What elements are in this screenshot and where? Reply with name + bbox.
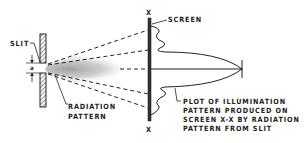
radiation-pattern-callout: RADIATION PATTERN [55, 75, 116, 121]
slit-label: SLIT [10, 39, 29, 48]
screen-label: SCREEN [168, 15, 202, 24]
slit-barrier [40, 34, 46, 107]
radiation-spread [46, 56, 125, 82]
radiation-label-line1: RADIATION [68, 102, 116, 111]
screen [148, 18, 151, 121]
plot-label-line1: PLOT OF ILLUMINATION [183, 97, 286, 106]
plot-description: PLOT OF ILLUMINATION PATTERN PRODUCED ON… [175, 88, 300, 133]
radiation-label-line2: PATTERN [68, 112, 107, 121]
plot-label-line2: PATTERN PRODUCED ON [183, 106, 288, 115]
slit-width-label: a [30, 64, 35, 71]
plot-label-line3: SCREEN X-X BY RADIATION [183, 115, 300, 124]
slit-diffraction-diagram: SLIT a RADIATION PATTERN X X SCREEN PLOT… [0, 0, 304, 143]
x-bottom-label: X [146, 125, 152, 134]
slit-callout: SLIT a [10, 39, 40, 82]
plot-label-line4: PATTERN FROM SLIT [183, 124, 272, 133]
x-top-label: X [146, 8, 152, 17]
